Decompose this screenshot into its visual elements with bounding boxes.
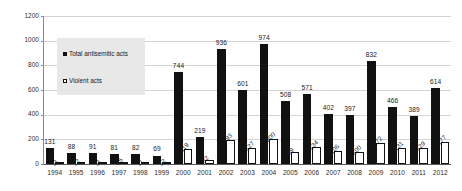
legend-item-total-antisemitic-acts: Total antisemitic acts bbox=[63, 51, 128, 57]
bar-value-label-total: 974 bbox=[256, 35, 273, 42]
bar-violent-acts bbox=[376, 143, 385, 164]
x-axis-tick-label: 2006 bbox=[301, 170, 322, 177]
bar-violent-acts bbox=[398, 148, 407, 164]
bar-total-antisemitic-acts bbox=[431, 88, 440, 164]
bar-violent-acts bbox=[441, 142, 450, 164]
legend-label: Violent acts bbox=[69, 78, 102, 84]
y-axis-tick-label: 1000 bbox=[0, 37, 39, 43]
x-axis-tick-label: 2004 bbox=[258, 170, 279, 177]
bar-value-label-total: 219 bbox=[192, 128, 209, 135]
x-axis-tick-label: 2002 bbox=[215, 170, 236, 177]
x-axis-tick-label: 2012 bbox=[430, 170, 451, 177]
bar-value-label-total: 601 bbox=[235, 81, 252, 88]
bar-total-antisemitic-acts bbox=[410, 116, 419, 164]
bar-value-label-total: 571 bbox=[299, 85, 316, 92]
bar-total-antisemitic-acts bbox=[324, 114, 333, 164]
bar-value-label-total: 389 bbox=[406, 107, 423, 114]
bar-value-label-total: 402 bbox=[320, 105, 337, 112]
x-axis-tick-label: 2005 bbox=[280, 170, 301, 177]
bar-value-label-total: 91 bbox=[85, 144, 102, 151]
y-axis-tick-label: 800 bbox=[0, 62, 39, 68]
y-axis-tick-label: 0 bbox=[0, 161, 39, 167]
bar-value-label-total: 88 bbox=[63, 144, 80, 151]
y-axis-tick-label: 400 bbox=[0, 111, 39, 117]
bar-total-antisemitic-acts bbox=[346, 115, 355, 164]
bar-value-label-total: 508 bbox=[277, 92, 294, 99]
bar-total-antisemitic-acts bbox=[388, 107, 397, 164]
bar-total-antisemitic-acts bbox=[217, 49, 226, 164]
bar-group bbox=[322, 16, 343, 164]
bar-total-antisemitic-acts bbox=[260, 44, 269, 164]
x-axis-tick-label: 2000 bbox=[173, 170, 194, 177]
legend-item-violent-acts: Violent acts bbox=[63, 78, 102, 84]
x-axis-tick-label: 1996 bbox=[87, 170, 108, 177]
y-axis-tick-label: 600 bbox=[0, 87, 39, 93]
bar-total-antisemitic-acts bbox=[238, 90, 247, 164]
x-axis-tick-label: 2011 bbox=[408, 170, 429, 177]
bar-violent-acts bbox=[226, 140, 235, 164]
y-axis-tick-mark bbox=[41, 164, 44, 165]
bar-value-label-total: 82 bbox=[127, 145, 144, 152]
bar-chart: 020040060080010001200 199419951996199719… bbox=[0, 0, 462, 191]
bar-group bbox=[344, 16, 365, 164]
bar-value-label-total: 744 bbox=[170, 63, 187, 70]
x-axis-tick-label: 2008 bbox=[344, 170, 365, 177]
bar-violent-acts bbox=[269, 139, 278, 164]
y-axis-tick-label: 1200 bbox=[0, 13, 39, 19]
y-axis-tick-label: 200 bbox=[0, 136, 39, 142]
filled-square-icon bbox=[63, 52, 67, 56]
x-axis-tick-label: 2007 bbox=[322, 170, 343, 177]
bar-value-label-total: 832 bbox=[363, 52, 380, 59]
hollow-square-icon bbox=[63, 79, 67, 83]
x-axis-tick-label: 1995 bbox=[65, 170, 86, 177]
bar-value-label-total: 466 bbox=[384, 98, 401, 105]
bar-value-label-total: 81 bbox=[106, 145, 123, 152]
x-axis-tick-label: 2001 bbox=[194, 170, 215, 177]
bar-value-label-total: 131 bbox=[42, 139, 59, 146]
x-axis-tick-label: 1997 bbox=[108, 170, 129, 177]
bar-value-label-total: 69 bbox=[149, 146, 166, 153]
x-axis-tick-label: 1994 bbox=[44, 170, 65, 177]
bar-group bbox=[194, 16, 215, 164]
bar-total-antisemitic-acts bbox=[367, 61, 376, 164]
bar-value-label-total: 936 bbox=[213, 40, 230, 47]
bar-violent-acts bbox=[312, 147, 321, 164]
x-axis-tick-label: 2010 bbox=[387, 170, 408, 177]
chart-legend: Total antisemitic acts Violent acts bbox=[57, 38, 145, 95]
bar-group bbox=[151, 16, 172, 164]
bar-violent-acts bbox=[184, 149, 193, 164]
x-axis-tick-label: 1998 bbox=[130, 170, 151, 177]
x-axis-tick-label: 2003 bbox=[237, 170, 258, 177]
x-axis-tick-label: 1999 bbox=[151, 170, 172, 177]
bar-total-antisemitic-acts bbox=[303, 94, 312, 164]
bar-value-label-total: 614 bbox=[427, 79, 444, 86]
bar-value-label-total: 397 bbox=[342, 106, 359, 113]
legend-label: Total antisemitic acts bbox=[69, 51, 128, 57]
x-axis-tick-label: 2009 bbox=[365, 170, 386, 177]
